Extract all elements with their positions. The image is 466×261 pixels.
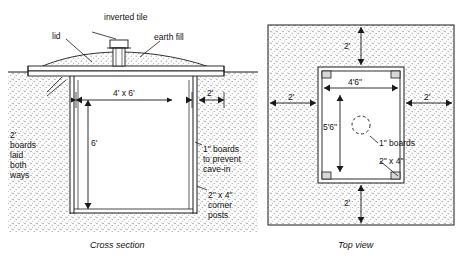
label-inner-height: 5'6" — [323, 122, 337, 132]
label-top-margin: 2' — [344, 41, 350, 51]
label-bottom-margin: 2' — [344, 198, 350, 208]
label-corner-posts: 2" x 4" corner posts — [208, 190, 232, 220]
label-right-margin: 2' — [424, 92, 430, 102]
label-lid: lid — [52, 31, 61, 41]
figure-container: inverted tile lid earth fill 4' x 6' 2' … — [0, 0, 466, 261]
lid-structure — [28, 66, 224, 76]
dimension-depth — [85, 100, 92, 209]
label-posts-2x4: 2" x 4" — [379, 156, 403, 166]
label-depth: 6' — [91, 138, 97, 148]
label-earth-fill: earth fill — [154, 32, 184, 42]
label-pit-width: 4' x 6' — [113, 88, 135, 98]
caption-top-view: Top view — [338, 240, 373, 250]
top-view-panel — [268, 25, 454, 225]
label-right-offset: 2' — [207, 88, 213, 98]
label-boards-1in: 1" boards — [379, 138, 415, 148]
label-boards-prevent-cave-in: 1" boards to prevent cave-in — [203, 144, 241, 174]
label-inner-width: 4'6" — [348, 77, 362, 87]
label-boards-laid-both-ways: 2' boards laid both ways — [10, 130, 36, 180]
label-left-margin: 2' — [288, 92, 294, 102]
caption-cross-section: Cross section — [90, 240, 145, 250]
figure-svg — [0, 0, 466, 261]
label-inverted-tile: inverted tile — [104, 12, 147, 22]
